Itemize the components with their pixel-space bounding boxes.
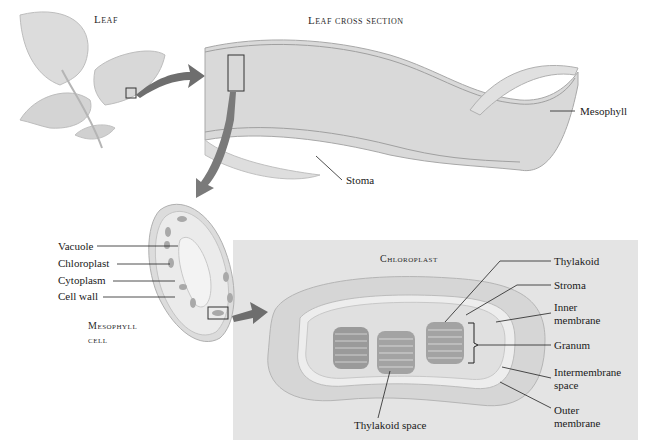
inner-membrane-label-2: membrane <box>554 314 600 327</box>
mesophyll-cell-title-2: cell <box>88 334 108 345</box>
cytoplasm-label: Cytoplasm <box>58 274 106 287</box>
intermembrane-label-1: Intermembrane <box>554 366 621 379</box>
chloroplast-illustration <box>268 277 545 406</box>
mesophyll-label: Mesophyll <box>580 105 627 118</box>
outer-membrane-label-2: membrane <box>554 417 600 430</box>
cell-wall-label: Cell wall <box>58 290 98 303</box>
mesophyll-cell-illustration <box>149 204 234 341</box>
thylakoid-space-label: Thylakoid space <box>354 419 426 432</box>
mesophyll-cell-title-1: Mesophyll <box>88 320 137 331</box>
inner-membrane-label-1: Inner <box>554 301 577 314</box>
vacuole-label: Vacuole <box>58 240 93 253</box>
cross-section-title: Leaf cross section <box>308 14 403 26</box>
chloroplast-label: Chloroplast <box>58 257 109 270</box>
leaf-cross-section-illustration <box>205 40 578 179</box>
granum-stack-3 <box>426 322 464 364</box>
leaf-title: Leaf <box>94 13 118 25</box>
outer-membrane-label-1: Outer <box>554 404 579 417</box>
stoma-label: Stoma <box>346 174 374 187</box>
granum-label: Granum <box>554 339 590 352</box>
leaf-illustration <box>20 12 165 148</box>
granum-stack-2 <box>377 331 415 374</box>
intermembrane-label-2: space <box>554 379 578 392</box>
stroma-label: Stroma <box>554 279 586 292</box>
arrow-icon <box>232 302 268 324</box>
granum-stack-1 <box>333 327 369 369</box>
thylakoid-label: Thylakoid <box>554 255 599 268</box>
chloroplast-title: Chloroplast <box>380 253 438 264</box>
